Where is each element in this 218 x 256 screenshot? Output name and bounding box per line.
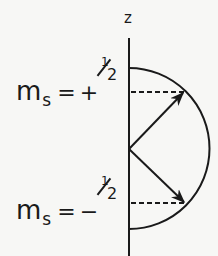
spin-vector-up-arrow <box>129 93 183 149</box>
minus-sign: − <box>80 201 98 223</box>
state-label-plus-half: m s = + 1 2 <box>16 74 116 104</box>
state-label-minus-half: m s = − 1 2 <box>16 193 116 223</box>
s-subscript: s <box>42 211 51 228</box>
m-symbol: m <box>16 197 41 223</box>
plus-sign: + <box>80 82 98 104</box>
equals-sign: = <box>57 201 75 223</box>
fraction-denominator: 2 <box>107 67 117 83</box>
m-symbol: m <box>16 78 41 104</box>
z-axis-label: z <box>124 11 132 26</box>
fraction-one-half: 1 2 <box>100 74 116 100</box>
spin-vector-down-arrow <box>129 149 184 202</box>
equals-sign: = <box>57 82 75 104</box>
fraction-denominator: 2 <box>107 186 117 202</box>
fraction-one-half: 1 2 <box>100 193 116 219</box>
s-subscript: s <box>42 92 51 109</box>
